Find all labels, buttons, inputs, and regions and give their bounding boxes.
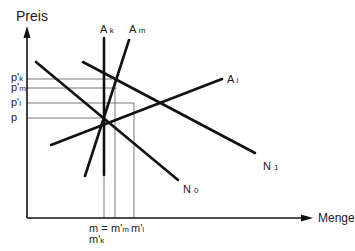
y-tick-p-l: p'l <box>11 96 21 108</box>
x-axis-arrow-icon <box>301 215 313 222</box>
label-n-0: N 0 <box>183 183 198 195</box>
y-tick-p-m: p'm <box>11 81 26 93</box>
x-tick-m-m: m'm <box>111 222 129 234</box>
label-a-l: A l <box>227 73 239 85</box>
curve-n-0 <box>36 62 178 180</box>
y-axis-title: Preis <box>16 8 48 24</box>
y-tick-p: p <box>11 111 17 123</box>
x-tick-m-l: m'l <box>131 222 144 234</box>
axes <box>27 34 305 218</box>
label-a-m: A m <box>129 23 145 35</box>
label-a-k: A k <box>100 23 114 35</box>
y-axis-arrow-icon <box>24 26 31 38</box>
label-n-1: N 1 <box>263 160 278 172</box>
x-axis-title: Menge <box>318 211 355 225</box>
x-tick-m-k: m'k <box>89 233 104 245</box>
